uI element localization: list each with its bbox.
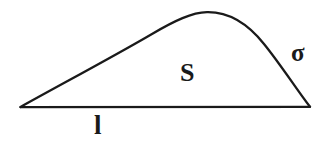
curve-label-sigma: σ	[291, 40, 305, 65]
area-label: S	[180, 60, 194, 86]
figure-container: S σ l	[0, 0, 325, 142]
base-length-label: l	[94, 112, 102, 139]
diagram-canvas	[0, 0, 325, 142]
boundary-curve-sigma	[21, 12, 311, 107]
